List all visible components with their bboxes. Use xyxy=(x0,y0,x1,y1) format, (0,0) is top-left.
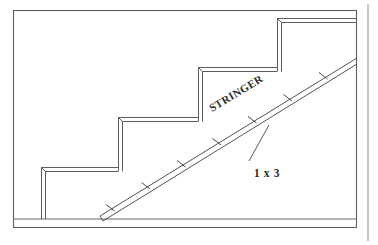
step-1 xyxy=(42,168,119,220)
diagram-canvas: STRINGER 1 x 3 xyxy=(0,0,378,245)
stringer-tick-marks xyxy=(106,73,328,212)
lumber-size-label: 1 x 3 xyxy=(254,167,280,179)
stair-profile xyxy=(42,19,357,220)
illustration-frame xyxy=(14,11,357,228)
stair-stringer-diagram: STRINGER 1 x 3 xyxy=(0,0,378,245)
stringer-label: STRINGER xyxy=(207,72,266,114)
stringer-board xyxy=(100,58,357,221)
leader-line-1x3 xyxy=(249,125,269,161)
step-4 xyxy=(278,19,357,72)
